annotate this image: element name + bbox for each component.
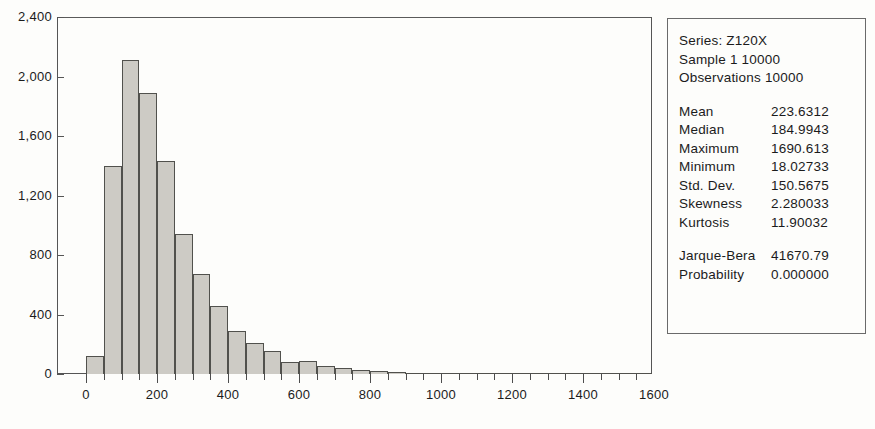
x-axis-tick-label: 400 [198,388,258,402]
y-axis-tick-mark [57,315,64,316]
x-axis-major-tick-mark [157,374,158,383]
x-axis-tick-label: 200 [127,388,187,402]
statistic-value: 223.6312 [771,103,829,122]
x-axis-minor-tick-mark [423,374,424,380]
y-axis-tick-mark [57,255,64,256]
x-axis: 02004006008001000120014001600 [0,0,660,429]
x-axis-tick-label: 1000 [411,388,471,402]
y-axis-tick-mark [57,77,64,78]
x-axis-minor-tick-mark [636,374,637,380]
statistic-row: Median184.9943 [679,121,865,140]
x-axis-minor-tick-mark [335,374,336,380]
x-axis-minor-tick-mark [494,374,495,380]
statistic-row: Kurtosis11.90032 [679,214,865,233]
x-axis-tick-label: 600 [269,388,329,402]
x-axis-minor-tick-mark [406,374,407,380]
statistic-row: Minimum18.02733 [679,158,865,177]
histogram-screenshot: 04008001,2001,6002,0002,400 020040060080… [0,0,875,429]
statistic-label: Jarque-Bera [679,247,771,266]
x-axis-minor-tick-mark [281,374,282,380]
sample-range: Sample 1 10000 [679,51,865,70]
x-axis-major-tick-mark [299,374,300,383]
y-axis-tick-mark [57,374,64,375]
statistic-row: Skewness2.280033 [679,195,865,214]
statistic-value: 1690.613 [771,140,829,159]
statistic-label: Maximum [679,140,771,159]
x-axis-minor-tick-mark [264,374,265,380]
x-axis-minor-tick-mark [104,374,105,380]
statistics-box: Series: Z120X Sample 1 10000 Observation… [667,18,866,334]
x-axis-tick-label: 800 [340,388,400,402]
x-axis-minor-tick-mark [122,374,123,380]
statistic-label: Kurtosis [679,214,771,233]
x-axis-minor-tick-mark [459,374,460,380]
x-axis-minor-tick-mark [317,374,318,380]
normality-test-list: Jarque-Bera41670.79Probability0.000000 [679,247,865,284]
statistic-value: 41670.79 [771,247,829,266]
x-axis-minor-tick-mark [210,374,211,380]
x-axis-minor-tick-mark [619,374,620,380]
x-axis-minor-tick-mark [175,374,176,380]
statistic-value: 184.9943 [771,121,829,140]
y-axis-tick-mark [57,196,64,197]
statistic-value: 0.000000 [771,266,829,285]
x-axis-minor-tick-mark [193,374,194,380]
x-axis-minor-tick-mark [530,374,531,380]
statistic-label: Median [679,121,771,140]
x-axis-tick-label: 1200 [482,388,542,402]
x-axis-major-tick-mark [228,374,229,383]
series-name: Series: Z120X [679,32,865,51]
statistic-row: Maximum1690.613 [679,140,865,159]
x-axis-minor-tick-mark [139,374,140,380]
x-axis-minor-tick-mark [352,374,353,380]
observations-count: Observations 10000 [679,69,865,88]
descriptive-statistics-list: Mean223.6312Median184.9943Maximum1690.61… [679,103,865,233]
x-axis-tick-label: 0 [56,388,116,402]
x-axis-minor-tick-mark [388,374,389,380]
statistic-row: Probability0.000000 [679,266,865,285]
x-axis-tick-label: 1400 [553,388,613,402]
statistic-label: Probability [679,266,771,285]
statistic-row: Jarque-Bera41670.79 [679,247,865,266]
x-axis-minor-tick-mark [246,374,247,380]
x-axis-major-tick-mark [441,374,442,383]
statistic-label: Std. Dev. [679,177,771,196]
statistic-value: 11.90032 [771,214,828,233]
x-axis-major-tick-mark [583,374,584,383]
statistic-value: 18.02733 [771,158,829,177]
x-axis-minor-tick-mark [477,374,478,380]
x-axis-minor-tick-mark [548,374,549,380]
stats-spacer-2 [679,232,865,247]
x-axis-major-tick-mark [512,374,513,383]
histogram-panel: 04008001,2001,6002,0002,400 020040060080… [0,0,660,429]
x-axis-minor-tick-mark [601,374,602,380]
statistic-value: 150.5675 [771,177,829,196]
y-axis-tick-mark [57,136,64,137]
statistic-label: Skewness [679,195,771,214]
x-axis-major-tick-mark [86,374,87,383]
statistic-row: Mean223.6312 [679,103,865,122]
statistic-row: Std. Dev.150.5675 [679,177,865,196]
x-axis-tick-label: 1600 [624,388,684,402]
statistic-label: Mean [679,103,771,122]
y-axis-tick-mark [57,17,64,18]
stats-spacer-1 [679,88,865,103]
x-axis-major-tick-mark [370,374,371,383]
x-axis-minor-tick-mark [565,374,566,380]
statistic-label: Minimum [679,158,771,177]
statistic-value: 2.280033 [771,195,829,214]
